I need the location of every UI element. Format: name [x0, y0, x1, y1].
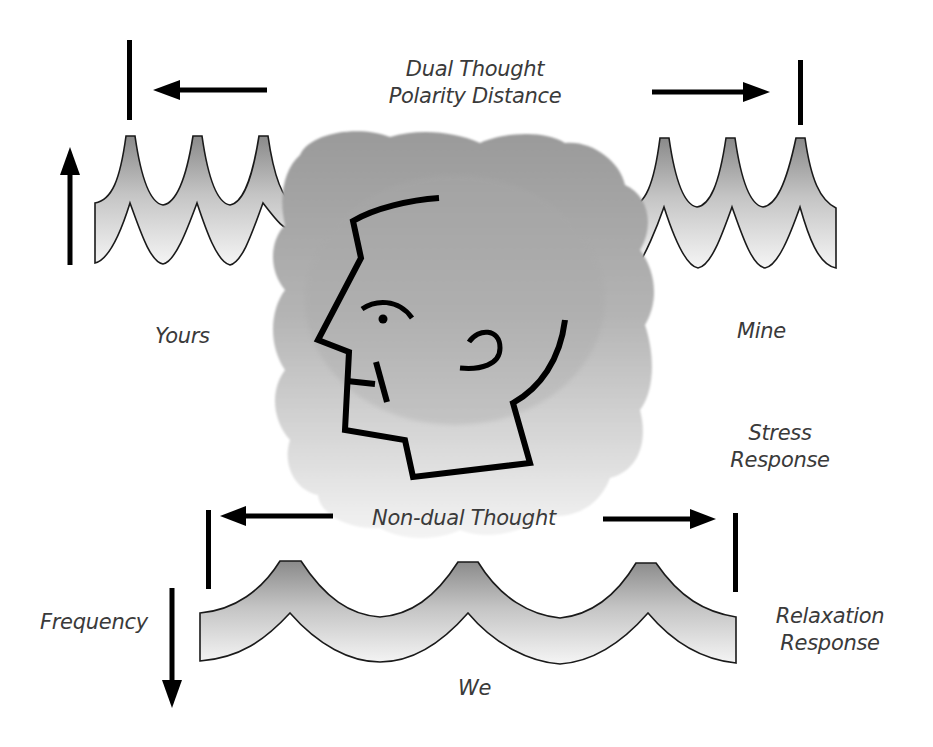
arrow-left-icon	[220, 506, 333, 526]
stress-line1: Stress	[715, 420, 845, 447]
we-label: We	[458, 675, 491, 702]
arrow-left-icon	[153, 80, 267, 100]
non-dual-thought-label: Non-dual Thought	[372, 505, 556, 532]
arrow-right-icon	[603, 509, 716, 529]
dual-thought-label: Dual Thought Polarity Distance	[370, 56, 580, 110]
top-left-wave	[95, 136, 295, 265]
top-right-wave	[630, 138, 836, 268]
arrow-down-icon	[162, 588, 182, 708]
arrow-right-icon	[652, 82, 770, 102]
dual-thought-line1: Dual Thought	[370, 56, 580, 83]
top-right-bar	[798, 60, 803, 125]
mine-label: Mine	[737, 318, 786, 345]
bottom-right-bar	[733, 513, 738, 592]
dual-thought-line2: Polarity Distance	[370, 83, 580, 110]
thought-cloud	[273, 131, 654, 538]
yours-label: Yours	[155, 323, 210, 350]
bottom-left-bar	[206, 510, 211, 589]
relaxation-response-label: Relaxation Response	[765, 603, 895, 657]
top-left-bar	[127, 40, 132, 120]
relaxation-line2: Response	[765, 630, 895, 657]
bottom-wave	[200, 561, 736, 664]
mouth-line	[347, 381, 375, 384]
stress-line2: Response	[715, 447, 845, 474]
eye-icon	[379, 315, 388, 324]
arrow-up-icon	[60, 147, 80, 265]
stress-response-label: Stress Response	[715, 420, 845, 474]
frequency-label: Frequency	[40, 609, 148, 636]
relaxation-line1: Relaxation	[765, 603, 895, 630]
